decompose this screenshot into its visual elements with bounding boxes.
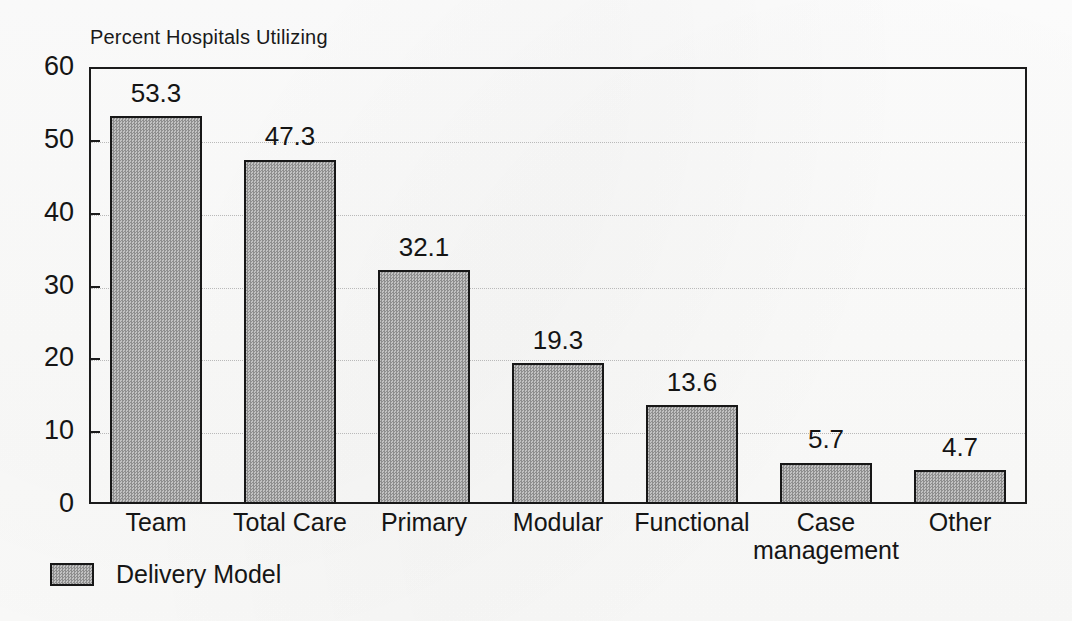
y-axis-tick-label: 30 bbox=[16, 272, 74, 299]
x-axis-category-line: Total Care bbox=[233, 508, 347, 536]
x-axis-category-line: Team bbox=[125, 508, 186, 536]
y-axis-tick-label: 60 bbox=[16, 53, 74, 80]
bar[interactable] bbox=[780, 463, 872, 505]
bar-slot: 4.7 bbox=[893, 67, 1027, 504]
x-axis-category-line: Other bbox=[929, 508, 992, 536]
legend-swatch-delivery-model bbox=[50, 563, 94, 586]
bar[interactable] bbox=[512, 363, 604, 504]
y-axis-tick-label: 50 bbox=[16, 126, 74, 153]
bar[interactable] bbox=[378, 270, 470, 504]
y-axis-tick-label: 0 bbox=[16, 490, 74, 517]
bar-slot: 19.3 bbox=[491, 67, 625, 504]
bar-slot: 13.6 bbox=[625, 67, 759, 504]
x-axis-category-line: Case bbox=[797, 508, 855, 536]
x-axis-category-line: Functional bbox=[634, 508, 749, 536]
bar-value-label: 32.1 bbox=[399, 234, 450, 260]
bars-layer: 53.347.332.119.313.65.74.7 bbox=[89, 67, 1027, 504]
bar[interactable] bbox=[914, 470, 1006, 504]
bar-slot: 5.7 bbox=[759, 67, 893, 504]
bar-chart: Percent Hospitals Utilizing 010203040506… bbox=[0, 0, 1072, 621]
chart-title: Percent Hospitals Utilizing bbox=[90, 26, 328, 49]
bar-value-label: 53.3 bbox=[131, 80, 182, 106]
x-axis-category-line: management bbox=[739, 536, 913, 564]
bar-value-label: 5.7 bbox=[808, 426, 844, 452]
x-axis-category-line: Primary bbox=[381, 508, 467, 536]
y-axis-tick-label: 10 bbox=[16, 417, 74, 444]
bar-slot: 53.3 bbox=[89, 67, 223, 504]
bar[interactable] bbox=[646, 405, 738, 504]
bar-value-label: 4.7 bbox=[942, 434, 978, 460]
bar-value-label: 13.6 bbox=[667, 369, 718, 395]
bar-slot: 47.3 bbox=[223, 67, 357, 504]
legend: Delivery Model bbox=[50, 560, 281, 589]
y-axis-tick-label: 40 bbox=[16, 199, 74, 226]
bar[interactable] bbox=[110, 116, 202, 504]
bar[interactable] bbox=[244, 160, 336, 505]
x-axis-category-label: Other bbox=[873, 508, 1047, 536]
bar-slot: 32.1 bbox=[357, 67, 491, 504]
bar-value-label: 47.3 bbox=[265, 123, 316, 149]
bar-value-label: 19.3 bbox=[533, 327, 584, 353]
y-axis-tick-label: 20 bbox=[16, 344, 74, 371]
legend-label-delivery-model: Delivery Model bbox=[116, 560, 281, 589]
y-axis-labels: 0102030405060 bbox=[12, 0, 74, 621]
x-axis-category-line: Modular bbox=[513, 508, 603, 536]
